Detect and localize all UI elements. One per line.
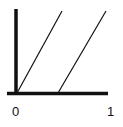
diagonal-line-1	[17, 11, 62, 93]
diagonal-line-2	[58, 11, 106, 93]
diagram-canvas: 0 1	[0, 0, 123, 127]
x-tick-label-1: 1	[107, 104, 114, 119]
x-tick-label-0: 0	[12, 104, 19, 119]
